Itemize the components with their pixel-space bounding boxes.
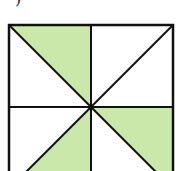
shaded-triangle-right-lower <box>91 107 173 171</box>
diagram-canvas: ) <box>0 0 180 171</box>
shaded-triangle-bottom-left-lower <box>9 107 91 171</box>
square-diagram <box>0 0 180 171</box>
center-point <box>89 105 94 110</box>
